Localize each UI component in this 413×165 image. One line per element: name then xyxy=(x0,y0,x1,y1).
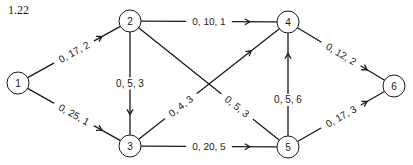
edge-label: 0, 5, 3 xyxy=(110,78,150,90)
svg-text:4: 4 xyxy=(285,17,291,28)
edge-label: 0, 10, 1 xyxy=(186,15,232,27)
node-3: 3 xyxy=(119,135,141,157)
svg-text:0, 10, 1: 0, 10, 1 xyxy=(192,16,226,27)
edge-label: 0, 25, 1 xyxy=(51,98,97,131)
svg-text:0, 5, 6: 0, 5, 6 xyxy=(274,94,302,105)
svg-text:5: 5 xyxy=(285,142,291,153)
edge-label: 0, 12, 2 xyxy=(318,37,363,71)
node-1: 1 xyxy=(7,72,29,94)
edge-label: 0, 4, 3 xyxy=(161,89,200,123)
svg-text:0, 12, 2: 0, 12, 2 xyxy=(324,41,359,68)
edges-layer xyxy=(28,19,385,150)
network-diagram: 0, 17, 20, 25, 10, 10, 10, 5, 30, 5, 30,… xyxy=(0,0,413,165)
svg-text:0, 5, 3: 0, 5, 3 xyxy=(116,78,144,89)
svg-text:0, 20, 5: 0, 20, 5 xyxy=(192,141,226,152)
node-5: 5 xyxy=(277,136,299,158)
node-4: 4 xyxy=(277,11,299,33)
svg-text:3: 3 xyxy=(127,141,133,152)
edge-label: 0, 20, 5 xyxy=(186,140,232,152)
node-2: 2 xyxy=(119,10,141,32)
edge-label: 0, 17, 3 xyxy=(318,100,364,133)
svg-text:0, 17, 3: 0, 17, 3 xyxy=(324,103,359,129)
svg-text:6: 6 xyxy=(391,81,397,92)
node-6: 6 xyxy=(383,75,405,97)
edge-label: 0, 5, 3 xyxy=(218,89,257,124)
edge-label: 0, 5, 6 xyxy=(268,94,308,106)
edge-label: 0, 17, 2 xyxy=(51,36,97,69)
svg-text:2: 2 xyxy=(127,16,133,27)
svg-text:1: 1 xyxy=(15,78,21,89)
svg-text:0, 5, 3: 0, 5, 3 xyxy=(223,93,252,119)
svg-text:0, 4, 3: 0, 4, 3 xyxy=(167,93,196,119)
nodes-layer: 123456 xyxy=(7,10,405,158)
